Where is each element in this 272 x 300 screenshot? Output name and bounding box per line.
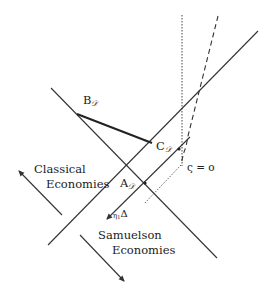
samuelson-economies-label-line1: Samuelson — [98, 228, 162, 242]
c-marker — [177, 147, 180, 150]
point-b-label: B𝒟 — [83, 93, 99, 108]
samuelson-economies-label-line2: Economies — [112, 243, 175, 257]
a-marker — [143, 181, 146, 184]
classical-economies-label-line1: Classical — [34, 162, 86, 176]
ascending-boundary-line — [48, 31, 258, 245]
zeta-zero-dotted-line — [144, 165, 181, 204]
zeta-zero-label: ς = o — [187, 161, 215, 173]
point-c-label: C𝒟 — [156, 139, 173, 154]
classical-economies-label-line2: Economies — [46, 177, 109, 191]
b-to-c-segment — [77, 114, 152, 143]
point-a-label: A𝒟 — [119, 176, 136, 191]
economics-regime-diagram: B𝒟 C𝒟 A𝒟 ς = o η1Δ Classical Economies S… — [0, 0, 272, 300]
eta-delta-label: η1Δ — [113, 208, 128, 220]
